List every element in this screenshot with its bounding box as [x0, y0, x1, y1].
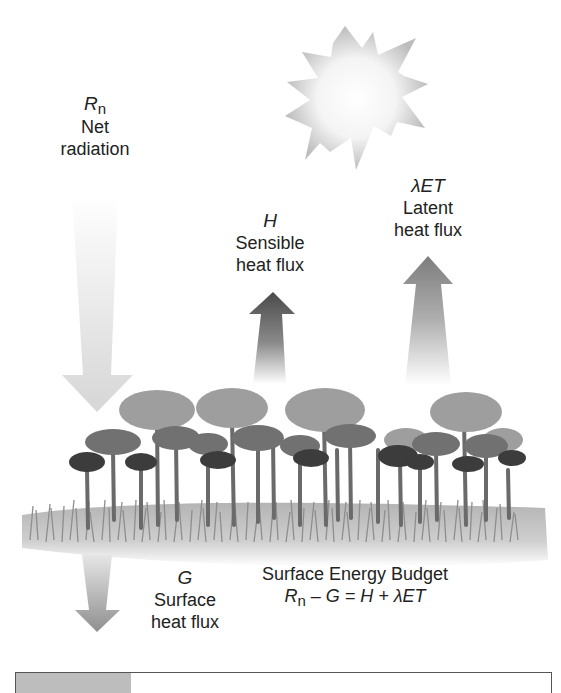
energy-budget-equation: Rn – G = H + λET [240, 585, 470, 608]
bottom-frame [15, 672, 552, 693]
sensible-heat-label: H Sensible heat flux [220, 210, 320, 276]
sensible-heat-line2: heat flux [220, 254, 320, 276]
latent-heat-label: λET Latent heat flux [378, 175, 478, 241]
surface-heat-symbol: G [140, 567, 230, 589]
latent-heat-line2: heat flux [378, 219, 478, 241]
latent-heat-symbol: λET [378, 175, 478, 197]
net-radiation-symbol: Rn [45, 93, 145, 116]
energy-budget-block: Surface Energy Budget Rn – G = H + λET [240, 563, 470, 608]
sun-icon [285, 26, 428, 170]
surface-heat-label: G Surface heat flux [140, 567, 230, 633]
net-radiation-label: Rn Net radiation [45, 93, 145, 160]
sensible-heat-line1: Sensible [220, 232, 320, 254]
surface-heat-line1: Surface [140, 589, 230, 611]
latent-heat-arrow [403, 256, 453, 385]
bottom-frame-fill [16, 673, 131, 693]
latent-heat-line1: Latent [378, 197, 478, 219]
energy-budget-title: Surface Energy Budget [240, 563, 470, 585]
net-radiation-line1: Net [45, 116, 145, 138]
net-radiation-line2: radiation [45, 138, 145, 160]
surface-heat-arrow [75, 555, 120, 632]
sensible-heat-arrow [249, 292, 295, 384]
sensible-heat-symbol: H [220, 210, 320, 232]
surface-heat-line2: heat flux [140, 611, 230, 633]
net-radiation-arrow [62, 195, 133, 412]
